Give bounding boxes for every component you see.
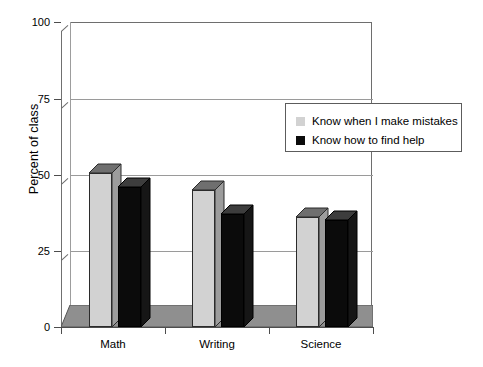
- bar-side-face: [348, 211, 357, 327]
- y-tick-label-75: 75: [16, 94, 50, 105]
- legend-label-series-b: Know how to find help: [312, 134, 425, 146]
- category-label-math: Math: [68, 338, 158, 351]
- legend-swatch-icon-series-b: [296, 136, 305, 145]
- bar-science-know-when-i-make-mistakes: [296, 208, 328, 327]
- bar-front-face: [89, 173, 112, 327]
- bar-side-face: [141, 178, 150, 327]
- gridline-75: [70, 99, 373, 100]
- y-axis-front-line: [61, 31, 62, 327]
- y-tick-label-0: 0: [16, 322, 50, 333]
- legend-item-know-how-to-find-help: Know how to find help: [296, 133, 425, 147]
- category-label-science: Science: [276, 338, 366, 351]
- tick-mark-100: [54, 22, 61, 23]
- category-tick-2: [269, 327, 270, 334]
- category-tick-0: [61, 327, 62, 334]
- bar-writing-know-how-to-find-help: [221, 205, 253, 327]
- category-tick-3: [373, 327, 374, 334]
- category-tick-1: [165, 327, 166, 334]
- legend-item-know-when-i-make-mistakes: Know when I make mistakes: [296, 114, 458, 128]
- bar-front-face: [192, 190, 215, 327]
- chart-legend: Know when I make mistakes Know how to fi…: [285, 103, 462, 152]
- category-label-writing: Writing: [172, 338, 262, 351]
- bar-side-face: [244, 205, 253, 327]
- bar-front-face: [325, 220, 348, 327]
- tick-mark-75: [54, 99, 61, 100]
- tick-mark-50: [54, 175, 61, 176]
- y-tick-label-100: 100: [16, 17, 50, 28]
- x-axis-baseline: [61, 327, 373, 328]
- bar-front-face: [221, 214, 244, 327]
- tick-mark-25: [54, 251, 61, 252]
- bar-front-face: [118, 187, 141, 327]
- bar-writing-know-when-i-make-mistakes: [192, 181, 224, 327]
- y-tick-label-25: 25: [16, 246, 50, 257]
- legend-swatch-icon-series-a: [296, 117, 305, 126]
- legend-label-series-a: Know when I make mistakes: [312, 115, 458, 127]
- bar-front-face: [296, 217, 319, 327]
- bar-math-know-how-to-find-help: [118, 178, 150, 327]
- bar-chart: Percent of class 100 75 50 25 0: [0, 0, 483, 367]
- bar-math-know-when-i-make-mistakes: [89, 164, 121, 327]
- tick-mark-0: [54, 327, 61, 328]
- y-tick-label-50: 50: [16, 170, 50, 181]
- bar-science-know-how-to-find-help: [325, 211, 357, 327]
